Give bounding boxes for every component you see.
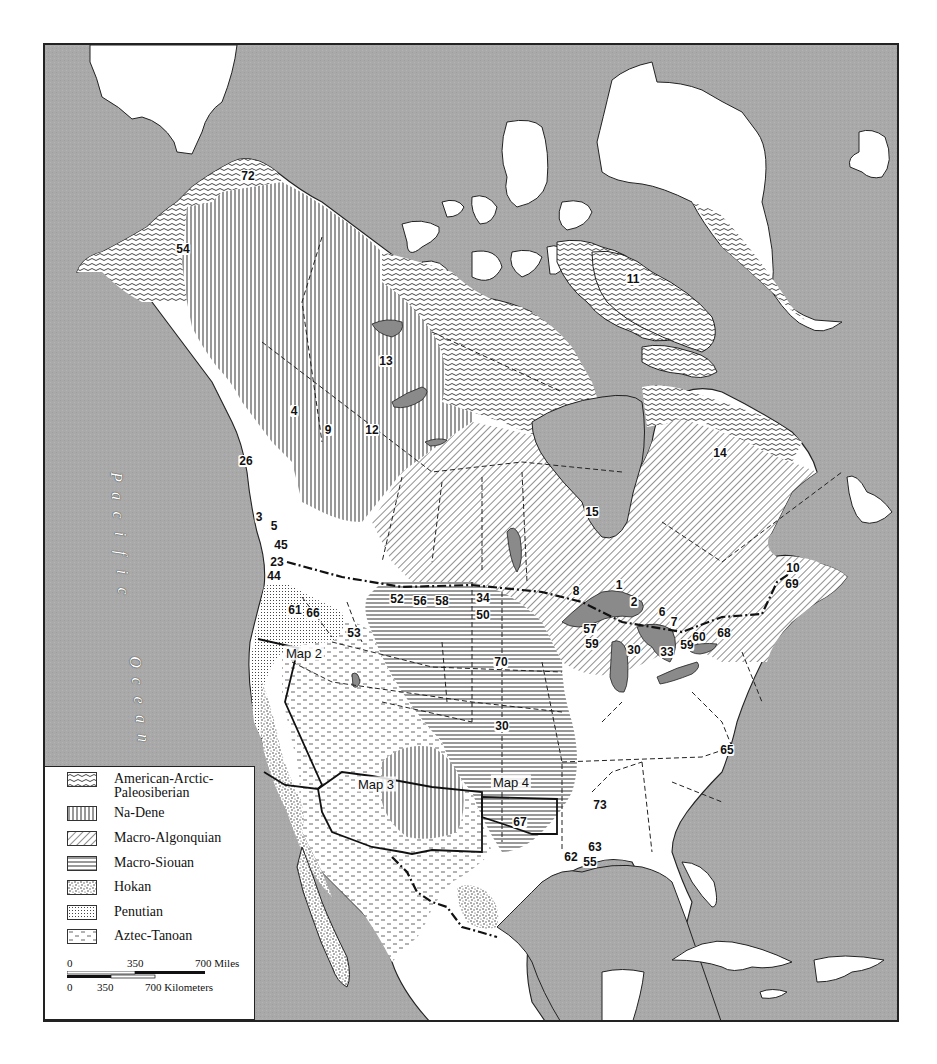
region-number-label: 4 [290,405,299,417]
region-number-label: 12 [364,424,379,436]
region-number-label: 56 [412,595,427,607]
scale-km-350: 350 [97,981,114,993]
legend-label: Penutian [114,905,163,919]
ocean-letter: P [107,472,125,482]
region-number-label: 34 [475,592,490,604]
region-number-label: 63 [587,841,602,853]
region-number-label: 54 [175,243,190,255]
ocean-letter: a [108,492,126,500]
legend-item-american-arctic: American-Arctic- Paleosiberian [67,772,214,800]
region-number-label: 30 [494,720,509,732]
region-number-label: 5 [270,520,279,532]
region-number-label: 57 [582,623,597,635]
legend-label-cont: Paleosiberian [114,786,214,800]
legend-label: Macro-Siouan [114,856,194,870]
region-number-label: 9 [324,424,333,436]
ocean-letter: n [134,734,152,742]
lake-michigan [610,641,628,692]
horizontal-lines-swatch-icon [67,856,97,871]
ocean-letter: c [109,511,127,518]
region-number-label: 50 [475,609,490,621]
region-number-label: 44 [266,570,281,582]
region-number-label: 3 [255,511,264,523]
region-number-label: 58 [434,595,449,607]
legend-item-hokan: Hokan [67,880,151,895]
region-number-label: 26 [238,455,253,467]
legend-item-aztec-tanoan: Aztec-Tanoan [67,929,192,944]
region-number-label: 61 [287,604,302,616]
region-number-label: 33 [659,646,674,658]
ocean-letter: i [113,570,131,574]
legend-label: Macro-Algonquian [114,831,221,845]
scale-bar: 0 350 700 Miles 0 350 700 Kilometers [67,969,247,1013]
region-number-label: 62 [563,851,578,863]
ocean-letter: O [126,656,144,668]
region-number-label: 23 [269,556,284,568]
region-number-label: 68 [716,627,731,639]
region-number-label: 52 [389,593,404,605]
scale-km-700: 700 Kilometers [145,981,213,993]
scale-bar-graphic [67,971,207,981]
legend-label: Aztec-Tanoan [114,929,192,943]
stipple-swatch-icon [67,880,97,895]
region-number-label: 2 [630,596,639,608]
legend-label: Hokan [114,880,151,894]
region-number-label: 1 [615,579,624,591]
region-number-label: 65 [719,744,734,756]
region-number-label: 6 [658,606,667,618]
legend-item-macro-siouan: Macro-Siouan [67,856,194,871]
legend-label: Na-Dene [114,806,165,820]
region-number-label: 15 [584,506,599,518]
vertical-lines-swatch-icon [67,806,97,821]
region-number-label: 69 [784,578,799,590]
region-number-label: 67 [512,816,527,828]
region-number-label: 14 [712,447,727,459]
region-number-label: 30 [626,644,641,656]
scale-km-0: 0 [67,981,73,993]
waves-swatch-icon [67,772,97,787]
inset-label-map2: Map 2 [284,646,324,661]
ocean-letter: f [112,551,130,555]
region-number-label: 66 [305,607,320,619]
region-number-label: 11 [626,273,641,285]
region-number-label: 55 [582,856,597,868]
dots-swatch-icon [67,905,97,920]
scale-miles-0: 0 [67,957,73,969]
ocean-letter: c [128,677,146,684]
region-number-label: 70 [493,656,508,668]
region-number-label: 59 [584,638,599,650]
region-number-label: 45 [273,539,288,551]
legend: American-Arctic- Paleosiberian Na-Dene M… [45,766,255,1020]
region-number-label: 10 [785,562,800,574]
ocean-letter: i [111,532,129,536]
ocean-letter: e [130,696,148,703]
region-number-label: 8 [572,585,581,597]
ocean-letter: c [114,587,132,594]
scale-miles-350: 350 [127,957,144,969]
region-number-label: 60 [691,631,706,643]
ocean-letter: a [132,715,150,723]
dashes-swatch-icon [67,929,97,944]
legend-item-macro-algonquian: Macro-Algonquian [67,831,221,846]
diagonal-lines-swatch-icon [67,831,97,846]
legend-item-penutian: Penutian [67,905,163,920]
inset-label-map3: Map 3 [356,777,396,792]
region-number-label: 7 [670,616,679,628]
inset-label-map4: Map 4 [491,775,531,790]
region-number-label: 73 [592,799,607,811]
region-number-label: 72 [240,170,255,182]
legend-item-na-dene: Na-Dene [67,806,165,821]
region-number-label: 13 [378,355,393,367]
scale-miles-700: 700 Miles [195,957,239,969]
legend-label: American-Arctic- [114,772,214,786]
region-number-label: 53 [346,627,361,639]
